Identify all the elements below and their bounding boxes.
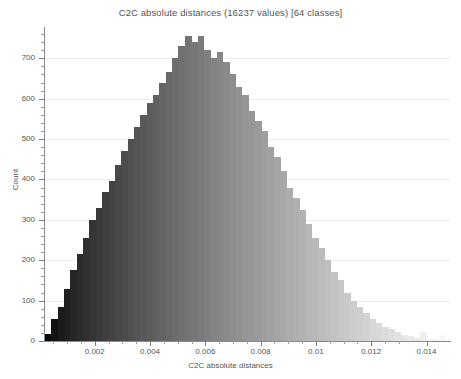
y-axis-minor-tick [41,115,45,116]
y-axis-minor-tick [41,317,45,318]
x-axis-minor-tick [233,341,234,344]
x-axis-minor-tick [219,341,220,344]
y-axis-label: 300 [5,215,35,224]
x-axis-minor-tick [330,341,331,344]
y-axis-minor-tick [41,333,45,334]
y-axis-tick [39,58,45,59]
x-axis-minor-tick [109,341,110,344]
x-axis-tick [371,341,372,346]
y-axis-minor-tick [41,34,45,35]
y-axis-minor-tick [41,284,45,285]
y-axis-label: 700 [5,53,35,62]
y-axis-minor-tick [41,91,45,92]
y-axis-minor-tick [41,252,45,253]
x-axis-minor-tick [385,341,386,344]
y-axis-minor-tick [41,50,45,51]
x-axis-minor-tick [53,341,54,344]
y-axis-label: 200 [5,255,35,264]
x-axis-minor-tick [81,341,82,344]
y-axis-tick [39,341,45,342]
histogram-bar [446,340,453,341]
y-axis-label: 400 [5,174,35,183]
y-axis-minor-tick [41,293,45,294]
y-axis-minor-tick [41,66,45,67]
y-axis-label: 0 [5,336,35,345]
histogram-bars [45,28,450,341]
x-axis-minor-tick [274,341,275,344]
x-axis-label: 0.014 [407,347,447,356]
y-axis-minor-tick [41,163,45,164]
y-axis-minor-tick [41,228,45,229]
x-axis-minor-tick [399,341,400,344]
x-axis-label: 0.008 [241,347,281,356]
x-axis-minor-tick [122,341,123,344]
y-axis-tick [39,220,45,221]
y-axis-minor-tick [41,74,45,75]
x-axis-minor-tick [247,341,248,344]
x-axis-minor-tick [357,341,358,344]
y-axis-tick [39,260,45,261]
y-axis-label: 100 [5,296,35,305]
y-axis-tick [39,301,45,302]
y-axis-minor-tick [41,196,45,197]
x-axis-label: 0.012 [351,347,391,356]
y-axis-minor-tick [41,83,45,84]
x-axis-tick [316,341,317,346]
x-axis-label: 0.004 [130,347,170,356]
y-axis-minor-tick [41,244,45,245]
histogram-chart: C2C absolute distances (16237 values) [6… [0,0,461,379]
y-axis-minor-tick [41,212,45,213]
y-axis-minor-tick [41,325,45,326]
x-axis-tick [427,341,428,346]
x-axis-tick [95,341,96,346]
x-axis-title: C2C absolute distances [0,361,461,370]
y-axis-minor-tick [41,147,45,148]
y-axis-tick [39,99,45,100]
y-axis-minor-tick [41,107,45,108]
y-axis-tick [39,179,45,180]
x-axis-label: 0.006 [185,347,225,356]
plot-area [45,28,450,341]
y-axis-minor-tick [41,309,45,310]
x-axis-minor-tick [178,341,179,344]
x-axis-minor-tick [164,341,165,344]
x-axis-minor-tick [136,341,137,344]
y-axis-minor-tick [41,276,45,277]
x-axis-minor-tick [344,341,345,344]
y-axis-minor-tick [41,204,45,205]
x-axis-tick [205,341,206,346]
y-axis-minor-tick [41,188,45,189]
x-axis-tick [150,341,151,346]
x-axis-tick [261,341,262,346]
y-axis-tick [39,139,45,140]
x-axis-label: 0.002 [75,347,115,356]
y-axis-minor-tick [41,131,45,132]
x-axis-minor-tick [67,341,68,344]
x-axis-minor-tick [302,341,303,344]
x-axis-minor-tick [192,341,193,344]
x-axis-minor-tick [288,341,289,344]
y-axis-label: 600 [5,94,35,103]
y-axis-minor-tick [41,42,45,43]
y-axis-minor-tick [41,236,45,237]
chart-title: C2C absolute distances (16237 values) [6… [0,7,461,18]
x-axis-label: 0.01 [296,347,336,356]
y-axis-minor-tick [41,123,45,124]
y-axis-label: 500 [5,134,35,143]
y-axis-minor-tick [41,171,45,172]
y-axis-minor-tick [41,155,45,156]
y-axis-minor-tick [41,268,45,269]
